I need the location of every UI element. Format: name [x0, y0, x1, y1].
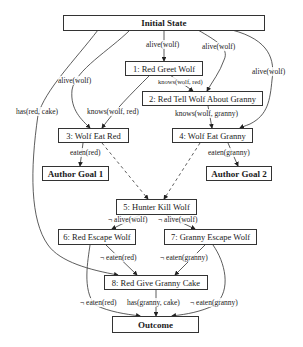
node-hunter-kill-wolf: 5: Hunter Kill Wolf — [116, 199, 197, 215]
node-red-escape-wolf: 6: Red Escape Wolf — [58, 229, 136, 245]
edge-label: has(granny, cake) — [127, 298, 180, 307]
edge-label: has(red, cake) — [16, 107, 58, 116]
node-author-goal-1: Author Goal 1 — [42, 166, 109, 181]
edge-label: knows(wolf, granny) — [175, 109, 238, 118]
node-author-goal-2: Author Goal 2 — [206, 166, 272, 181]
edge-label: ¬ eaten(granny) — [190, 298, 238, 307]
node-red-tell-wolf-about-granny: 2: Red Tell Wolf About Granny — [142, 91, 263, 106]
edge-label: knows(wolf, red) — [158, 77, 203, 86]
node-red-give-granny-cake: 8: Red Give Granny Cake — [104, 275, 208, 290]
node-outcome: Outcome — [112, 316, 199, 333]
edge-label: ¬ alive(wolf) — [158, 215, 197, 224]
edge-label: ¬ eaten(red) — [100, 253, 137, 262]
node-red-greet-wolf: 1: Red Greet Wolf — [125, 61, 203, 76]
edge-label: alive(wolf) — [58, 76, 91, 85]
node-wolf-eat-red: 3: Wolf Eat Red — [58, 128, 129, 143]
edge-label: alive(wolf) — [252, 67, 285, 76]
edge-label: knows(wolf, red) — [87, 107, 139, 116]
edge-label: eaten(red) — [70, 148, 100, 157]
edge-label: ¬ alive(wolf) — [108, 215, 147, 224]
node-initial-state: Initial State — [63, 15, 265, 31]
edge-label: ¬ eaten(granny) — [160, 253, 208, 262]
edge-label: alive(wolf) — [202, 42, 235, 51]
edge-label: ¬ eaten(red) — [80, 298, 117, 307]
node-wolf-eat-granny: 4: Wolf Eat Granny — [172, 128, 253, 143]
edge-label: alive(wolf) — [146, 40, 179, 49]
node-granny-escape-wolf: 7: Granny Escape Wolf — [164, 229, 257, 245]
edge-label: eaten(granny) — [208, 148, 250, 157]
